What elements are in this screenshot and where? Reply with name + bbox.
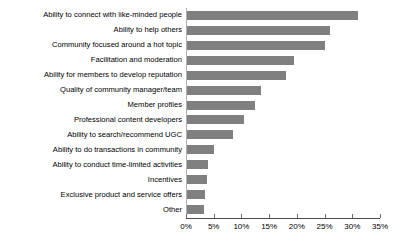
bar xyxy=(186,71,286,80)
bar xyxy=(186,115,244,124)
bar xyxy=(186,26,330,35)
category-label: Incentives xyxy=(0,176,182,184)
category-label: Ability to help others xyxy=(0,26,182,34)
axis-tick-label: 0% xyxy=(171,222,201,231)
axis-tick-label: 15% xyxy=(254,222,284,231)
category-label: Ability to conduct time-limited activiti… xyxy=(0,161,182,169)
category-label: Professional content developers xyxy=(0,116,182,124)
bar-row xyxy=(186,26,330,35)
category-label: Quality of community manager/team xyxy=(0,86,182,94)
axis-tick xyxy=(297,214,298,218)
bar xyxy=(186,56,294,65)
bar-row xyxy=(186,56,294,65)
bar-row xyxy=(186,190,205,199)
category-label: Other xyxy=(0,206,182,214)
axis-tick-label: 10% xyxy=(226,222,256,231)
axis-tick-label: 35% xyxy=(365,222,395,231)
bar xyxy=(186,160,208,169)
bar-row xyxy=(186,160,208,169)
value-axis-baseline xyxy=(186,8,187,218)
category-label: Facilitation and moderation xyxy=(0,56,182,64)
bar-row xyxy=(186,86,261,95)
bar xyxy=(186,41,325,50)
axis-tick xyxy=(241,214,242,218)
bar xyxy=(186,145,214,154)
bar xyxy=(186,86,261,95)
category-label: Ability to do transactions in community xyxy=(0,146,182,154)
category-label: Community focused around a hot topic xyxy=(0,41,182,49)
bar xyxy=(186,130,233,139)
bar-row xyxy=(186,175,207,184)
axis-tick xyxy=(214,214,215,218)
axis-tick xyxy=(352,214,353,218)
category-label: Exclusive product and service offers xyxy=(0,191,182,199)
bar-row xyxy=(186,130,233,139)
bar xyxy=(186,190,205,199)
axis-tick-label: 30% xyxy=(337,222,367,231)
bar-row xyxy=(186,205,204,214)
category-axis-labels: Ability to connect with like-minded peop… xyxy=(0,8,182,217)
axis-tick-label: 25% xyxy=(310,222,340,231)
category-label: Member profiles xyxy=(0,101,182,109)
axis-tick xyxy=(380,214,381,218)
axis-tick xyxy=(186,214,187,218)
bar-row xyxy=(186,101,255,110)
axis-tick xyxy=(325,214,326,218)
axis-tick-label: 5% xyxy=(199,222,229,231)
bar xyxy=(186,11,358,20)
bar xyxy=(186,205,204,214)
category-label: Ability to connect with like-minded peop… xyxy=(0,11,182,19)
axis-tick-label: 20% xyxy=(282,222,312,231)
bar-row xyxy=(186,41,325,50)
bar xyxy=(186,175,207,184)
category-label: Ability for members to develop reputatio… xyxy=(0,71,182,79)
axis-tick xyxy=(269,214,270,218)
bar-row xyxy=(186,11,358,20)
bar-row xyxy=(186,71,286,80)
bar-chart: Ability to connect with like-minded peop… xyxy=(0,0,416,249)
bar xyxy=(186,101,255,110)
value-axis-line xyxy=(186,218,380,219)
category-label: Ability to search/recommend UGC xyxy=(0,131,182,139)
plot-area xyxy=(186,8,380,217)
bar-row xyxy=(186,115,244,124)
bar-row xyxy=(186,145,214,154)
